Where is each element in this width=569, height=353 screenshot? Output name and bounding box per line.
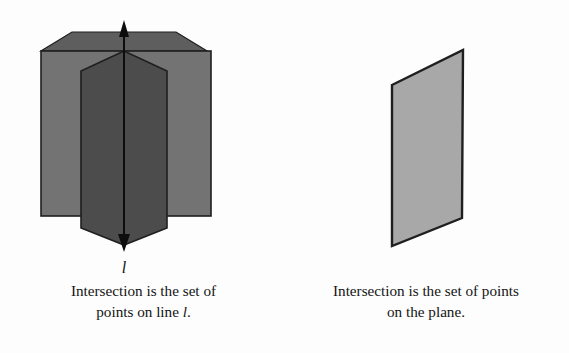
left-diagram-group: l <box>41 20 211 276</box>
caption-left-line-1: Intersection is the set of <box>6 281 281 302</box>
right-diagram-group <box>392 50 463 246</box>
line-l-label: l <box>122 259 127 276</box>
caption-right-line-1: Intersection is the set of points <box>288 281 564 302</box>
line-l-arrowhead-up <box>119 20 129 37</box>
caption-left-line-2-suffix: . <box>187 303 191 320</box>
caption-left-line-2-prefix: points on line <box>96 303 182 320</box>
left-wedge-top-right <box>124 32 207 51</box>
left-wedge-top-left <box>41 32 124 51</box>
caption-right-line-2: on the plane. <box>288 302 564 323</box>
caption-left: Intersection is the set of points on lin… <box>6 281 281 322</box>
caption-left-line-2: points on line l. <box>6 302 281 323</box>
right-single-plane <box>392 50 463 246</box>
left-front-plane-right <box>124 51 167 245</box>
caption-right: Intersection is the set of points on the… <box>288 281 564 322</box>
left-front-plane-left <box>81 51 124 245</box>
